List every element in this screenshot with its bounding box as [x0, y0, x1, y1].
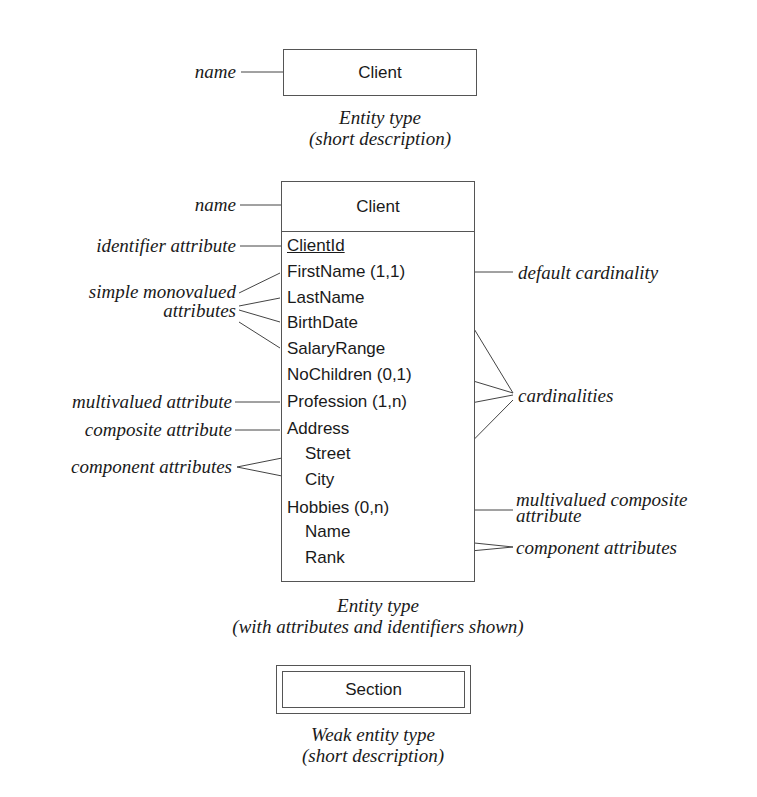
- label-line2: attributes: [20, 301, 236, 320]
- label-default-cardinality: default cardinality: [518, 262, 658, 284]
- caption-line2: (short description): [262, 745, 484, 766]
- entity-name: Section: [277, 679, 470, 701]
- entity-name: Client: [282, 196, 474, 218]
- weak-entity-box-section[interactable]: Section: [276, 665, 471, 714]
- label-component-attributes-left: component attributes: [0, 456, 232, 478]
- attribute-firstname: FirstName (1,1): [287, 261, 405, 283]
- attribute-city: City: [305, 469, 334, 491]
- caption-fig1: Entity type (short description): [283, 107, 477, 149]
- caption-fig2: Entity type (with attributes and identif…: [200, 595, 556, 637]
- label-multivalued-composite-attribute: multivalued composite attribute: [516, 492, 688, 524]
- attribute-hobby-name: Name: [305, 521, 350, 543]
- caption-line1: Entity type: [283, 107, 477, 128]
- attribute-birthdate: BirthDate: [287, 312, 358, 334]
- caption-line1: Entity type: [200, 595, 556, 616]
- attribute-address: Address: [287, 418, 349, 440]
- attribute-lastname: LastName: [287, 287, 364, 309]
- label-line2: attribute: [516, 508, 688, 524]
- label-line1: simple monovalued: [20, 282, 236, 301]
- caption-line2: (with attributes and identifiers shown): [200, 616, 556, 637]
- attribute-street: Street: [305, 443, 350, 465]
- entity-box-client-short[interactable]: Client: [283, 49, 477, 96]
- caption-fig3: Weak entity type (short description): [262, 724, 484, 766]
- header-divider: [282, 231, 474, 232]
- label-name-fig1: name: [150, 61, 236, 83]
- label-name: name: [100, 194, 236, 216]
- caption-line2: (short description): [283, 128, 477, 149]
- label-simple-monovalued-attributes: simple monovalued attributes: [20, 282, 236, 320]
- attribute-hobbies: Hobbies (0,n): [287, 497, 389, 519]
- caption-line1: Weak entity type: [262, 724, 484, 745]
- entity-name: Client: [284, 62, 476, 84]
- attribute-salaryrange: SalaryRange: [287, 338, 385, 360]
- attribute-nochildren: NoChildren (0,1): [287, 364, 412, 386]
- label-cardinalities: cardinalities: [518, 385, 613, 407]
- label-multivalued-attribute: multivalued attribute: [0, 391, 232, 413]
- attribute-hobby-rank: Rank: [305, 547, 345, 569]
- label-component-attributes-right: component attributes: [516, 537, 677, 559]
- attribute-clientid: ClientId: [287, 235, 345, 257]
- attribute-profession: Profession (1,n): [287, 391, 407, 413]
- label-identifier-attribute: identifier attribute: [20, 235, 236, 257]
- label-composite-attribute: composite attribute: [0, 419, 232, 441]
